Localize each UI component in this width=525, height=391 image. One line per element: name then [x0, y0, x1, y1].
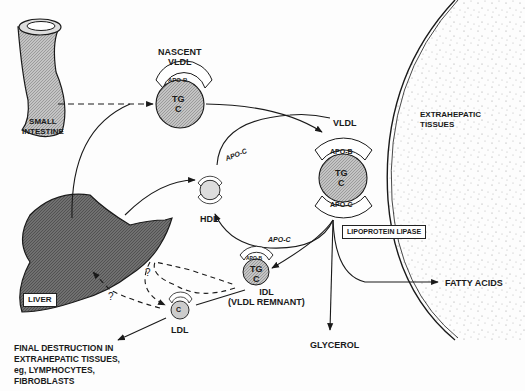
nascent-vldl-core-label: TG C	[172, 94, 185, 114]
vldl-core-label: TG C	[335, 168, 348, 188]
glycerol-label: GLYCEROL	[310, 340, 359, 350]
nascent-vldl-label-line1: NASCENT	[158, 47, 202, 57]
question-mark-1: ?	[145, 268, 151, 278]
liver-label: LIVER	[23, 293, 57, 307]
final-destruction-label: FINAL DESTRUCTION IN EXTRAHEPATIC TISSUE…	[14, 343, 120, 387]
final-destruction-line1: FINAL DESTRUCTION IN	[14, 343, 120, 354]
hdl-label: HDL	[200, 214, 219, 224]
idl-apo-b-label: APO-B	[246, 253, 262, 263]
lipoprotein-metabolism-diagram: SMALL INTESTINE NASCENT VLDL APO-B TG C …	[0, 0, 525, 391]
question-mark-2: ?	[108, 292, 114, 302]
extrahepatic-tissues-label: EXTRAHEPATIC TISSUES	[420, 110, 481, 130]
extrahepatic-tissue-region	[387, 0, 525, 340]
ldl-core-label: C	[176, 305, 181, 315]
final-destruction-line3: eg, LYMPHOCYTES,	[14, 365, 120, 376]
idl-label: IDL (VLDL REMNANT)	[228, 287, 305, 307]
hdl-particle[interactable]	[198, 176, 222, 204]
ldl-label: LDL	[171, 325, 189, 335]
small-intestine-label-line1: SMALL	[22, 117, 64, 127]
vldl-label: VLDL	[333, 118, 357, 128]
diagram-graphics	[0, 0, 525, 391]
idl-label-line2: (VLDL REMNANT)	[228, 297, 305, 307]
nascent-vldl-apo-b-label: APO-B	[168, 75, 187, 85]
nascent-vldl-label: NASCENT VLDL	[158, 47, 202, 67]
lipoprotein-lipase-label: LIPOPROTEIN LIPASE	[342, 225, 426, 239]
small-intestine-label-line2: INTESTINE	[22, 127, 64, 137]
apo-c-transfer-label-bottom: APO-C	[268, 235, 291, 245]
nascent-vldl-tg: TG	[172, 94, 185, 104]
vldl-tg: TG	[335, 168, 348, 178]
small-intestine-label: SMALL INTESTINE	[22, 117, 64, 137]
final-destruction-line4: FIBROBLASTS	[14, 376, 120, 387]
idl-label-line1: IDL	[228, 287, 305, 297]
vldl-apo-b-label: APO-B	[330, 147, 353, 157]
extrahepatic-line1: EXTRAHEPATIC	[420, 110, 481, 120]
nascent-vldl-c: C	[172, 104, 185, 114]
final-destruction-line2: EXTRAHEPATIC TISSUES,	[14, 354, 120, 365]
vldl-c: C	[335, 178, 348, 188]
vldl-apo-c-label: APO-C	[330, 200, 353, 210]
idl-core-label: TG C	[250, 264, 263, 284]
nascent-vldl-label-line2: VLDL	[158, 57, 202, 67]
idl-tg: TG	[250, 264, 263, 274]
extrahepatic-line2: TISSUES	[420, 120, 481, 130]
fatty-acids-label: FATTY ACIDS	[445, 278, 503, 288]
idl-c: C	[250, 274, 263, 284]
